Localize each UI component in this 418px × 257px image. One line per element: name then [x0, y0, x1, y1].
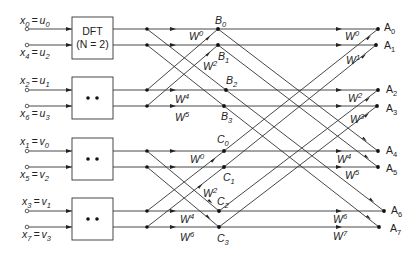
label-B0: B0 — [215, 14, 227, 29]
label-A4: A4 — [386, 144, 397, 159]
label-A0: A0 — [384, 21, 395, 36]
label-A7: A7 — [390, 222, 401, 237]
twiddle-W5: W5 — [175, 110, 190, 123]
dft-box-size: (N = 2) — [76, 38, 108, 50]
node-C2 — [217, 209, 221, 213]
label-A1: A1 — [384, 39, 395, 54]
label-A3: A3 — [386, 102, 397, 117]
twiddle-W2-out: W2 — [348, 91, 363, 104]
input-labels: x0=u0 x4=u2 x2=u1 x6=u3 x1=v0 x5=v2 x3=v… — [19, 14, 52, 243]
label-C1: C1 — [223, 171, 235, 186]
input-node — [25, 165, 29, 169]
input-label-7: x7=v3 — [21, 228, 52, 243]
twiddle-W6: W6 — [180, 230, 195, 243]
node-B2 — [224, 88, 228, 92]
input-label-2: x2=u1 — [19, 74, 50, 89]
twiddle-W0-lower: W0 — [190, 152, 205, 165]
input-label-4: x1=v0 — [19, 135, 50, 150]
node-C0 — [222, 149, 226, 153]
node-B3 — [222, 104, 226, 108]
dft-box-title: DFT — [82, 25, 103, 37]
twiddle-W0: W0 — [189, 29, 204, 42]
input-label-5: x5=v2 — [19, 168, 50, 183]
node-B1 — [216, 43, 220, 47]
label-A2: A2 — [386, 83, 397, 98]
twiddle-W0-out: W0 — [345, 29, 360, 42]
label-C0: C0 — [217, 133, 230, 148]
label-A5: A5 — [386, 162, 397, 177]
twiddle-W5-out: W5 — [345, 168, 360, 181]
node-C1 — [222, 165, 226, 169]
dft-box-1 — [72, 77, 113, 119]
label-A6: A6 — [391, 204, 402, 219]
input-label-1: x4=u2 — [19, 46, 50, 61]
input-label-3: x6=u3 — [19, 107, 50, 122]
input-label-0: x0=u0 — [19, 14, 50, 29]
twiddle-W4-out: W4 — [337, 152, 351, 165]
fft-flow-graph: x0=u0 x4=u2 x2=u1 x6=u3 x1=v0 x5=v2 x3=v… — [0, 0, 418, 257]
box-output-lines — [113, 29, 147, 227]
label-B3: B3 — [221, 110, 233, 125]
twiddle-W2-lower: W2 — [203, 186, 218, 199]
dft-box-3 — [72, 198, 113, 240]
stage0-nodes — [145, 27, 149, 229]
input-node — [25, 43, 29, 47]
label-B2: B2 — [226, 74, 238, 89]
twiddle-W1-out: W1 — [346, 53, 360, 66]
twiddle-W7-out: W7 — [333, 229, 348, 242]
twiddle-W2: W2 — [203, 59, 218, 72]
node-B0 — [216, 27, 220, 31]
twiddle-W6-out: W6 — [333, 212, 348, 225]
dft-box-2 — [72, 138, 113, 180]
input-label-6: x3=v1 — [21, 195, 51, 210]
twiddle-W3-out: W3 — [350, 112, 365, 125]
node-C3 — [217, 225, 221, 229]
dft-box-0: DFT (N = 2) — [72, 17, 113, 59]
twiddle-W4: W4 — [175, 92, 189, 105]
input-node — [25, 104, 29, 108]
output-nodes — [374, 27, 386, 229]
twiddle-W4-lower: W4 — [180, 212, 194, 225]
output-labels: A0 A1 A2 A3 A4 A5 A6 A7 — [384, 21, 402, 237]
label-C3: C3 — [217, 232, 230, 247]
